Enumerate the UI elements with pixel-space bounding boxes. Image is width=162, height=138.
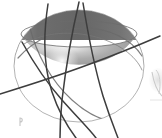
sphere-diagram-canvas <box>0 0 162 138</box>
figure-container: Shaded sphere with intersecting great-ci… <box>0 0 162 138</box>
specular-highlight <box>45 47 79 75</box>
